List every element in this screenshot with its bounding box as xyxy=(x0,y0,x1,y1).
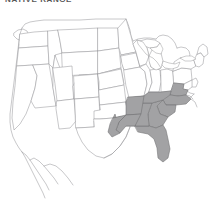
midwest-states xyxy=(118,19,174,98)
north-america-map xyxy=(0,6,210,200)
western-states xyxy=(12,28,100,130)
native-range-figure: NATIVE RANGE xyxy=(0,0,210,200)
figure-title: NATIVE RANGE xyxy=(5,0,72,5)
baja-california xyxy=(22,152,73,198)
